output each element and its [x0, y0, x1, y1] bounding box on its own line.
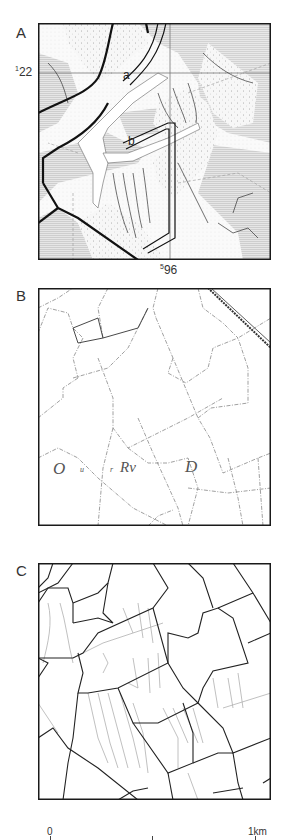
scale-tick-end: [255, 836, 256, 840]
panel-a-label: A: [16, 24, 26, 41]
point-label-b: b: [128, 134, 135, 148]
lettering-u: u: [80, 465, 84, 474]
map-panel-a: a b: [38, 23, 271, 260]
panel-b-label: B: [16, 287, 26, 304]
map-panel-b: O u r Rv D: [38, 288, 271, 526]
lettering-o: O: [53, 459, 65, 478]
lettering-d: D: [184, 457, 198, 476]
scale-tick-start: [50, 836, 51, 840]
scale-tick-mid: [152, 836, 153, 840]
point-label-a: a: [123, 68, 130, 82]
map-panel-c: [38, 563, 271, 800]
scale-bar: 0 1km: [0, 805, 295, 836]
scale-end-label: 1km: [248, 826, 267, 837]
cadastral-map-svg: O u r Rv D: [38, 288, 271, 526]
geological-map-svg: a b: [38, 23, 271, 260]
field-boundary-map-svg: [38, 563, 271, 800]
lettering-rv: Rv: [119, 459, 136, 475]
grid-easting-label: 596: [160, 263, 177, 277]
panel-c-label: C: [16, 562, 27, 579]
grid-northing-label: 122: [15, 65, 32, 79]
